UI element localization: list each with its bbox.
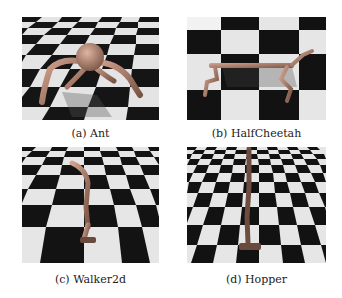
caption-walker2d: (c) Walker2d: [5, 273, 176, 286]
caption-halfcheetah: (b) HalfCheetah: [171, 127, 342, 140]
panel-halfcheetah-image: [187, 17, 326, 120]
caption-hopper: (d) Hopper: [171, 273, 342, 286]
halfcheetah-render: [187, 17, 326, 120]
walker2d-render: [22, 147, 159, 263]
panel-walker2d-image: [22, 147, 159, 263]
hopper-render: [187, 147, 326, 263]
panel-ant-image: [22, 17, 159, 120]
caption-ant: (a) Ant: [5, 127, 176, 140]
panel-hopper-image: [187, 147, 326, 263]
ant-render: [22, 17, 159, 120]
